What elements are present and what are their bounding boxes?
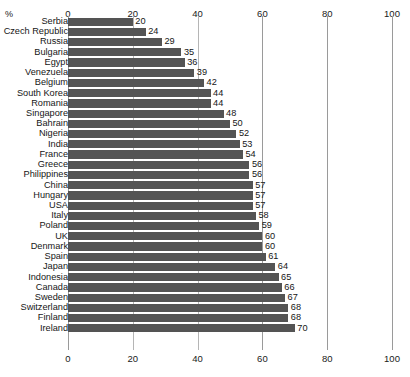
bar-value-label: 54: [245, 149, 255, 159]
bar: [68, 48, 181, 56]
bar-value-label: 39: [197, 67, 207, 77]
bar-value-label: 67: [288, 292, 298, 302]
bar-value-label: 24: [148, 26, 158, 36]
bar-value-label: 35: [184, 47, 194, 57]
bar: [68, 324, 295, 332]
category-label: Finland: [0, 312, 68, 322]
category-label: UK: [0, 231, 68, 241]
x-axis-tick-bottom-100: 100: [384, 353, 400, 364]
bar: [68, 242, 262, 250]
bar-value-label: 50: [233, 118, 243, 128]
bar-value-label: 58: [258, 210, 268, 220]
bar-value-label: 56: [252, 159, 262, 169]
bar-value-label: 60: [265, 231, 275, 241]
bar: [68, 283, 282, 291]
category-label: Indonesia: [0, 272, 68, 282]
x-axis-tick-bottom-20: 20: [128, 353, 139, 364]
bar: [68, 150, 243, 158]
bar-value-label: 44: [213, 88, 223, 98]
category-label: China: [0, 180, 68, 190]
bar-value-label: 52: [239, 128, 249, 138]
bar: [68, 140, 240, 148]
category-label: France: [0, 149, 68, 159]
category-label: Egypt: [0, 57, 68, 67]
bar: [68, 99, 211, 107]
x-axis-tick-bottom-80: 80: [322, 353, 333, 364]
bar-value-label: 65: [281, 272, 291, 282]
bar: [68, 202, 253, 210]
bar: [68, 18, 133, 26]
category-label: Japan: [0, 261, 68, 271]
bar-value-label: 53: [242, 139, 252, 149]
bar: [68, 58, 185, 66]
bar: [68, 294, 285, 302]
bar: [68, 161, 249, 169]
category-label: Bahrain: [0, 118, 68, 128]
bar-value-label: 44: [213, 98, 223, 108]
bar: [68, 79, 204, 87]
category-label: South Korea: [0, 88, 68, 98]
bar-row: Ireland70: [0, 324, 410, 334]
category-label: Bulgaria: [0, 47, 68, 57]
bar-value-label: 64: [278, 261, 288, 271]
bar: [68, 232, 262, 240]
category-label: Poland: [0, 220, 68, 230]
bar: [68, 273, 279, 281]
bar: [68, 130, 236, 138]
category-label: Czech Republic: [0, 26, 68, 36]
bar-value-label: 56: [252, 169, 262, 179]
bar: [68, 222, 259, 230]
category-label: Switzerland: [0, 302, 68, 312]
category-label: Hungary: [0, 190, 68, 200]
bar-value-label: 66: [284, 282, 294, 292]
bar: [68, 110, 224, 118]
bar: [68, 28, 146, 36]
category-label: Singapore: [0, 108, 68, 118]
plot-area: Serbia20Czech Republic24Russia29Bulgaria…: [0, 0, 410, 377]
category-label: Greece: [0, 159, 68, 169]
x-axis-tick-bottom-60: 60: [257, 353, 268, 364]
bar: [68, 120, 230, 128]
category-label: Russia: [0, 36, 68, 46]
category-label: India: [0, 139, 68, 149]
bar-value-label: 48: [226, 108, 236, 118]
bar: [68, 253, 266, 261]
category-label: Serbia: [0, 16, 68, 26]
bar-value-label: 36: [187, 57, 197, 67]
bar-chart: % 020406080100 Serbia20Czech Republic24R…: [0, 0, 410, 377]
bar: [68, 171, 249, 179]
bar-value-label: 60: [265, 241, 275, 251]
bar: [68, 89, 211, 97]
category-label: Denmark: [0, 241, 68, 251]
category-label: Romania: [0, 98, 68, 108]
category-label: Spain: [0, 251, 68, 261]
bar: [68, 304, 288, 312]
bar-value-label: 42: [207, 77, 217, 87]
bar-value-label: 57: [255, 190, 265, 200]
category-label: Canada: [0, 282, 68, 292]
x-axis-tick-bottom-40: 40: [192, 353, 203, 364]
bar: [68, 69, 194, 77]
bar: [68, 181, 253, 189]
bar: [68, 263, 275, 271]
bar-value-label: 61: [268, 251, 278, 261]
bar: [68, 212, 256, 220]
category-label: Ireland: [0, 323, 68, 333]
bar-value-label: 59: [262, 220, 272, 230]
category-label: Belgium: [0, 77, 68, 87]
category-label: Nigeria: [0, 128, 68, 138]
category-label: Philippines: [0, 169, 68, 179]
bar-value-label: 68: [291, 302, 301, 312]
category-label: USA: [0, 200, 68, 210]
bar-value-label: 20: [135, 16, 145, 26]
bar: [68, 38, 162, 46]
bar-value-label: 70: [297, 323, 307, 333]
bar-value-label: 57: [255, 180, 265, 190]
bar: [68, 314, 288, 322]
bar-value-label: 68: [291, 312, 301, 322]
bar-value-label: 29: [164, 36, 174, 46]
category-label: Venezuela: [0, 67, 68, 77]
category-label: Italy: [0, 210, 68, 220]
bar: [68, 191, 253, 199]
bar-value-label: 57: [255, 200, 265, 210]
